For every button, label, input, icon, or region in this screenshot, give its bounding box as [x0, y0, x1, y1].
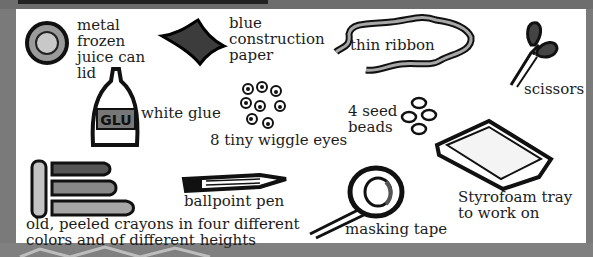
item-label-scissors: scissors — [524, 81, 584, 97]
item-label-crayons: old, peeled crayons in four different co… — [26, 216, 300, 248]
construction-paper-icon — [158, 16, 228, 66]
item-label-eyes: 8 tiny wiggle eyes — [210, 132, 347, 148]
item-label-beads: 4 seed beads — [348, 103, 397, 135]
item-label-pen: ballpoint pen — [184, 193, 284, 209]
juice-can-lid-icon — [24, 20, 70, 66]
glue-bottle-text: GLU — [100, 112, 131, 128]
styrofoam-tray-icon — [429, 117, 559, 192]
top-dark-strip — [18, 0, 268, 4]
item-label-tape: masking tape — [345, 221, 447, 237]
item-label-glue: white glue — [141, 105, 221, 121]
wiggle-eyes-icon — [236, 79, 296, 134]
scissors-icon — [501, 15, 561, 90]
glue-bottle-icon: GLU — [89, 67, 141, 147]
crayons-icon — [28, 159, 138, 219]
item-label-ribbon: thin ribbon — [350, 37, 435, 53]
materials-panel: metal frozen juice can lid blue construc… — [16, 9, 586, 243]
item-label-tray: Styrofoam tray to work on — [458, 189, 572, 221]
item-label-paper: blue construction paper — [229, 15, 325, 63]
